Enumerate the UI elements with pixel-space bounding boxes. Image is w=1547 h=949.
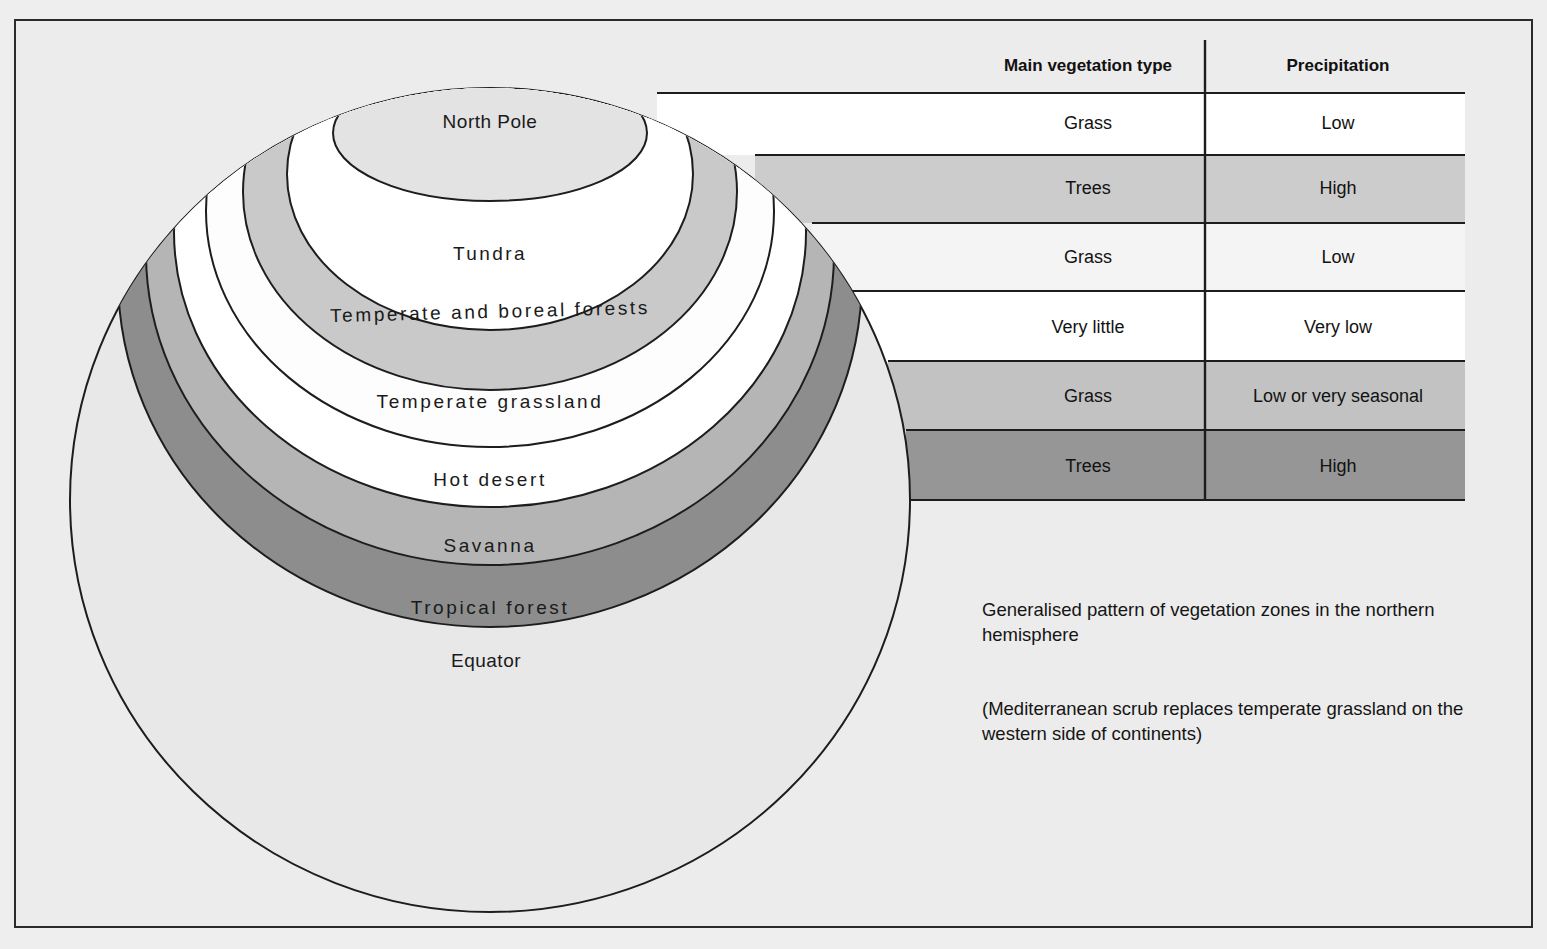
table-cell-precipitation-2: High <box>1319 178 1356 199</box>
table-cell-precipitation-4: Very low <box>1304 317 1372 338</box>
table-header-vegetation: Main vegetation type <box>1004 56 1172 76</box>
diagram-artwork <box>0 0 1547 949</box>
table-row-band-4 <box>852 291 1465 361</box>
table-cell-vegetation-2: Trees <box>1065 178 1110 199</box>
table-row-band-6 <box>906 430 1465 500</box>
table-cell-vegetation-3: Grass <box>1064 247 1112 268</box>
table-row-band-3 <box>812 223 1465 291</box>
figure-canvas: North Pole Tundra Temperate and boreal f… <box>0 0 1547 949</box>
table-cell-precipitation-3: Low <box>1321 247 1354 268</box>
globe-band-north-pole <box>333 65 647 201</box>
table-cell-precipitation-6: High <box>1319 456 1356 477</box>
table-cell-vegetation-1: Grass <box>1064 113 1112 134</box>
table-cell-precipitation-1: Low <box>1321 113 1354 134</box>
table-cell-vegetation-6: Trees <box>1065 456 1110 477</box>
table-header-precipitation: Precipitation <box>1287 56 1390 76</box>
table-cell-vegetation-4: Very little <box>1051 317 1124 338</box>
caption-main: Generalised pattern of vegetation zones … <box>982 598 1482 648</box>
table-cell-precipitation-5: Low or very seasonal <box>1253 386 1423 407</box>
table-cell-vegetation-5: Grass <box>1064 386 1112 407</box>
caption-note: (Mediterranean scrub replaces temperate … <box>982 697 1482 747</box>
